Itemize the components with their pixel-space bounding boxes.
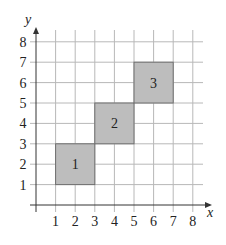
y-tick-label: 5: [20, 96, 27, 111]
y-tick-label: 2: [20, 157, 27, 172]
y-tick-label: 7: [20, 55, 27, 70]
coordinate-grid-figure: 123 x y 1234567812345678: [0, 0, 226, 245]
y-axis-arrow-icon: [33, 27, 39, 34]
y-tick-label: 8: [20, 35, 27, 50]
x-tick-label: 4: [111, 214, 118, 229]
x-tick-label: 3: [91, 214, 98, 229]
square-label: 1: [72, 157, 79, 172]
square-label: 3: [150, 76, 157, 91]
x-tick-label: 7: [170, 214, 177, 229]
y-tick-label: 4: [20, 116, 27, 131]
x-axis-label: x: [206, 205, 214, 220]
y-tick-label: 3: [20, 137, 27, 152]
x-tick-label: 8: [189, 214, 196, 229]
y-axis-label: y: [23, 12, 32, 27]
y-tick-label: 6: [20, 76, 27, 91]
x-tick-label: 2: [72, 214, 79, 229]
square-label: 2: [111, 116, 118, 131]
y-tick-label: 1: [20, 178, 27, 193]
x-tick-label: 6: [150, 214, 157, 229]
x-tick-label: 1: [52, 214, 59, 229]
x-tick-label: 5: [131, 214, 138, 229]
